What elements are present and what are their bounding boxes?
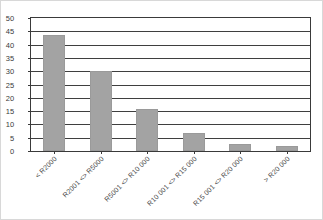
x-axis-labels: < R2000R2001 <> R5000R5001 <> R10 000R10…	[30, 153, 311, 215]
y-tick-label: 45	[0, 28, 14, 36]
bar-slot	[124, 18, 171, 151]
y-tick-label: 0	[0, 148, 14, 156]
y-tick-label: 10	[0, 121, 14, 129]
x-tick-label: R10 001 <> R15 000	[146, 155, 198, 207]
bar-slot	[264, 18, 311, 151]
y-tick-label: 5	[0, 134, 14, 142]
y-tick-label: 20	[0, 94, 14, 102]
bar[interactable]	[136, 109, 158, 151]
bar[interactable]	[90, 71, 112, 151]
bar[interactable]	[43, 35, 65, 151]
y-tick-label: 50	[0, 15, 14, 23]
bar-slot	[31, 18, 78, 151]
y-tick-label: 15	[0, 108, 14, 116]
x-tick-label: < R2000	[34, 155, 58, 179]
x-tick-label: > R20 000	[262, 155, 291, 184]
bar-slot	[217, 18, 264, 151]
bar-slot	[78, 18, 125, 151]
bars-group	[31, 18, 310, 151]
bar[interactable]	[183, 133, 205, 151]
y-tick-mark	[28, 151, 31, 152]
x-tick-label: R15 001 <> R20 000	[192, 155, 244, 207]
bar[interactable]	[229, 144, 251, 151]
bar-slot	[171, 18, 218, 151]
y-tick-label: 40	[0, 41, 14, 49]
y-tick-label: 25	[0, 81, 14, 89]
x-tick-label: R5001 <> R10 000	[103, 155, 151, 203]
x-tick-label: R2001 <> R5000	[61, 155, 105, 199]
y-tick-label: 30	[0, 68, 14, 76]
y-tick-label: 35	[0, 54, 14, 62]
bar-chart-figure: 05101520253035404550 < R2000R2001 <> R50…	[0, 0, 323, 220]
plot-area: 05101520253035404550	[30, 17, 311, 152]
